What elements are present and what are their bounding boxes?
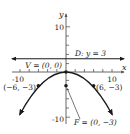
y-tick-label-10: 10 <box>54 23 64 32</box>
point-6-neg3 <box>92 84 96 88</box>
x-axis-label: x <box>122 63 127 72</box>
y-tick-label-neg10: -10 <box>52 115 64 124</box>
parabola-diagram: y 10 -10 x -10 10 D: y = 3 V = (0, 0) <box>0 0 130 134</box>
focus-label: F = (0, −3) <box>73 118 117 127</box>
vertex-point <box>64 70 68 74</box>
focus-leader-line <box>67 88 80 119</box>
focus-point <box>64 84 68 88</box>
y-axis-label: y <box>58 10 64 19</box>
directrix-label: D: y = 3 <box>74 49 106 58</box>
directrix: D: y = 3 <box>12 49 124 59</box>
vertex-label: V = (0, 0) <box>25 61 62 70</box>
point-label-6-neg3: (6, −3) <box>96 83 123 92</box>
point-neg6-neg3 <box>37 84 41 88</box>
point-label-neg6-neg3: (−6, −3) <box>3 83 36 92</box>
